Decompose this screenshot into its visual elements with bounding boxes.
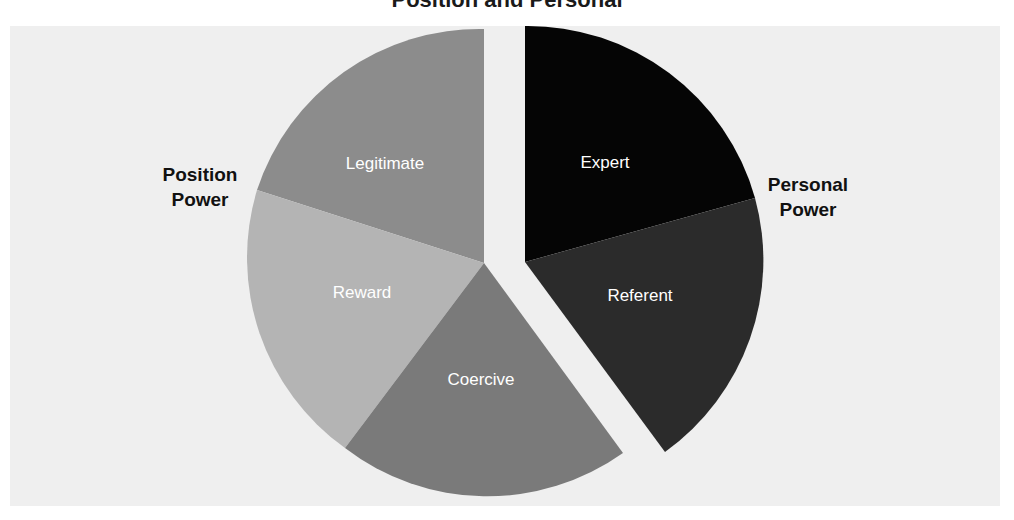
label-expert: Expert	[580, 153, 629, 172]
personal-power-line1: Personal	[758, 172, 858, 197]
label-reward: Reward	[333, 283, 392, 302]
label-coercive: Coercive	[447, 370, 514, 389]
personal-power-label: Personal Power	[758, 172, 858, 222]
label-legitimate: Legitimate	[346, 154, 424, 173]
position-power-line1: Position	[150, 162, 250, 187]
pie-chart: Legitimate Reward Coercive Expert Refere…	[0, 0, 1014, 520]
personal-power-line2: Power	[758, 197, 858, 222]
position-power-line2: Power	[150, 187, 250, 212]
label-referent: Referent	[607, 286, 672, 305]
position-power-label: Position Power	[150, 162, 250, 212]
